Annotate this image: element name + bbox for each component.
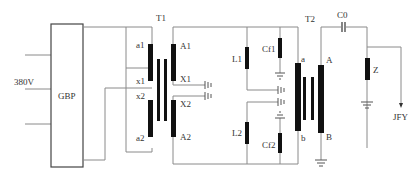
transformer-t2 [295,63,324,133]
impedance-z [365,58,370,80]
output-network [321,22,401,160]
cf2-label: Cf2 [262,140,276,150]
jfy-label: JFY [393,112,409,122]
t1-center-tap-grounds [205,81,211,100]
filter-grounds [275,73,285,118]
t1-terminal-A2: A2 [180,132,191,142]
jfy-output-arrow-icon [399,103,403,108]
t2-terminal-A: A [326,55,333,65]
t1-terminal-X1: X1 [180,74,191,84]
source-voltage-label: 380V [14,77,35,87]
t1-label: T1 [156,13,166,23]
t1-terminal-x1: x1 [136,76,145,86]
t1-terminal-x2: x2 [136,91,145,101]
circuit-diagram: 380V GBP T1 a1 x1 x2 a2 A1 X1 X2 A2 [0,0,415,179]
gbp-label: GBP [58,91,76,101]
t1-core-right [164,59,167,121]
t1-terminal-X2: X2 [180,99,191,109]
t2-terminal-a: a [301,54,305,64]
transformer-t1 [148,44,176,137]
t1-terminal-A1: A1 [180,41,191,51]
source-input-lines [25,55,51,124]
t2-label: T2 [305,14,315,24]
t1-coil-X2-A2 [171,100,176,137]
capacitor-cf1 [278,38,282,58]
l2-label: L2 [232,128,242,138]
t1-terminal-a2: a2 [136,133,145,143]
cf1-label: Cf1 [262,44,276,54]
t1-coil-a1-x1 [148,44,153,81]
inductor-l2 [245,122,249,144]
t2-terminal-b: b [301,133,306,143]
t2-terminal-B: B [326,132,332,142]
t1-core-left [157,59,160,121]
t2-core-left [303,77,306,120]
t1-terminal-a1: a1 [136,40,145,50]
t2-core-right [311,77,314,120]
inductor-l1 [245,47,249,69]
t1-coil-A1-X1 [171,44,176,81]
capacitor-cf2 [278,133,282,153]
t2-secondary-coil [318,65,324,133]
t2-primary-coil [295,63,301,131]
t1-coil-x2-a2 [148,100,153,137]
c0-label: C0 [337,10,348,20]
z-label: Z [373,65,379,75]
l1-label: L1 [232,54,242,64]
